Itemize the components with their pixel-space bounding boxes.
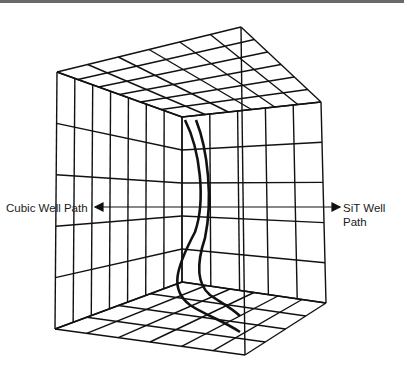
left-wall-grid-line	[146, 104, 147, 295]
right-wall-grid-line	[293, 105, 297, 299]
left-wall-grid-line	[57, 123, 182, 150]
left-wall-grid-line	[55, 249, 182, 278]
3d-well-path-diagram	[0, 0, 404, 365]
right-wall-grid-line	[182, 216, 324, 223]
well-paths	[177, 120, 240, 332]
left-wall-grid-line	[56, 216, 182, 226]
right-wall-grid-line	[321, 102, 326, 303]
front-edge-line	[241, 27, 245, 355]
left-wall-grid-line	[109, 91, 110, 309]
right-arrow-arrowhead-icon	[332, 203, 340, 211]
floor-grid-line	[245, 303, 326, 355]
right-wall-grid-line	[238, 111, 240, 290]
sit-well-path-label-line2: Path	[343, 215, 385, 229]
ceiling-grid-line	[140, 77, 294, 102]
cubic-well-path	[177, 120, 240, 332]
cubic-well-path-label: Cubic Well Path	[6, 201, 88, 215]
right-wall-grid-line	[265, 108, 268, 295]
right-wall-grid-line	[182, 249, 325, 263]
sit-well-path-label: SiT Well Path	[343, 201, 385, 229]
left-wall-grid-line	[91, 85, 92, 316]
left-wall-grid-line	[128, 98, 129, 302]
left-wall-grid-line	[56, 175, 182, 183]
sit-well-path-label-line1: SiT Well	[343, 201, 385, 215]
right-wall-grid-line	[182, 182, 323, 183]
label-arrows	[95, 203, 340, 211]
left-arrow-arrowhead-icon	[95, 203, 103, 211]
